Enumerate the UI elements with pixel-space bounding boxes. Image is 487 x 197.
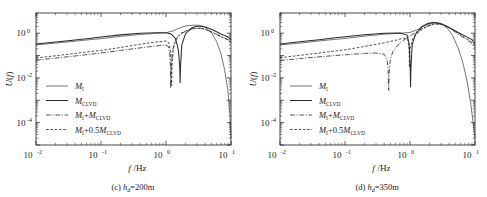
legend-label-sub: I bbox=[82, 86, 84, 92]
curve-m-clvd bbox=[280, 23, 475, 88]
y-tick-labels: 10010-210-4 bbox=[261, 28, 277, 128]
x-tick-labels: 10-210-1100101 bbox=[268, 149, 480, 160]
panel-caption: (d) hd=350m bbox=[356, 182, 400, 193]
y-axis-title-paren-close: ) bbox=[248, 71, 258, 74]
x-tick-exponent: -1 bbox=[102, 149, 107, 155]
x-tick-labels: 10-210-1100101 bbox=[24, 149, 236, 160]
curve-m-i-0-5m-clvd bbox=[280, 24, 475, 67]
plot-frame bbox=[36, 13, 231, 145]
y-axis-title-text: U(f) bbox=[4, 71, 14, 86]
y-tick-label: 10 bbox=[261, 73, 271, 83]
legend-label-1: MCLVD bbox=[318, 96, 341, 107]
x-tick-label: 10 bbox=[268, 150, 278, 160]
y-tick-labels: 10010-210-4 bbox=[17, 28, 33, 128]
curves bbox=[36, 25, 231, 138]
y-axis-title: U(f) bbox=[4, 71, 14, 86]
y-tick-exponent: -2 bbox=[271, 72, 276, 78]
curve-m-i bbox=[36, 25, 231, 138]
x-tick-label: 10 bbox=[24, 150, 34, 160]
chart-panel-c: 10-210-110010110010-210-4f/HzU(f)MIMCLVD… bbox=[0, 0, 243, 197]
y-tick-exponent: 0 bbox=[27, 28, 30, 34]
legend-label-sub2: CLVD bbox=[106, 130, 120, 136]
plot-area-d: 10-210-110010110010-210-4f/HzU(f)MIMCLVD… bbox=[248, 13, 479, 193]
chart-svg-c: 10-210-110010110010-210-4f/HzU(f)MIMCLVD… bbox=[0, 0, 243, 197]
y-axis-title: U(f) bbox=[248, 71, 258, 86]
figure-root: 10-210-110010110010-210-4f/HzU(f)MIMCLVD… bbox=[0, 0, 487, 197]
caption-value: =350m bbox=[375, 182, 400, 192]
curves bbox=[280, 23, 475, 139]
y-tick-label: 10 bbox=[261, 118, 271, 128]
x-tick-exponent: -1 bbox=[346, 149, 351, 155]
legend-label-0: MI bbox=[74, 81, 84, 92]
legend-label-3: MI+0.5MCLVD bbox=[318, 125, 365, 136]
legend-label-0: MI bbox=[318, 81, 328, 92]
panel-caption-text: (c) hd=200m bbox=[112, 182, 155, 193]
panel-caption: (c) hd=200m bbox=[112, 182, 155, 193]
legend-label-2: MI+MCLVD bbox=[318, 110, 354, 121]
caption-prefix: (d) bbox=[356, 182, 368, 192]
x-tick-label: 10 bbox=[154, 150, 164, 160]
x-tick-label: 10 bbox=[333, 150, 343, 160]
y-tick-exponent: -4 bbox=[271, 117, 276, 123]
plot-area-c: 10-210-110010110010-210-4f/HzU(f)MIMCLVD… bbox=[4, 13, 235, 193]
y-tick-label: 10 bbox=[17, 118, 27, 128]
chart-svg-d: 10-210-110010110010-210-4f/HzU(f)MIMCLVD… bbox=[244, 0, 487, 197]
y-tick-exponent: -4 bbox=[27, 117, 32, 123]
x-tick-exponent: -2 bbox=[281, 149, 286, 155]
legend-label-sub2: CLVD bbox=[96, 115, 110, 121]
x-axis-title-symbol: f bbox=[372, 163, 376, 173]
curve-m-i-m-clvd bbox=[36, 28, 231, 88]
curve-m-clvd bbox=[36, 26, 231, 83]
y-axis-title-paren-close: ) bbox=[4, 71, 14, 74]
legend-label-mid: +0.5 bbox=[328, 125, 343, 135]
x-axis-title: f/Hz bbox=[128, 163, 146, 173]
x-axis-title-unit: /Hz bbox=[378, 163, 391, 173]
x-tick-exponent: 1 bbox=[476, 149, 479, 155]
y-axis-ticks bbox=[280, 13, 475, 145]
y-tick-label: 10 bbox=[17, 28, 27, 38]
legend-label-2: MI+MCLVD bbox=[74, 110, 110, 121]
legend-label-3: MI+0.5MCLVD bbox=[74, 125, 121, 136]
y-tick-exponent: -2 bbox=[27, 72, 32, 78]
legend-label-1: MCLVD bbox=[74, 96, 97, 107]
legend-label-sub: CLVD bbox=[326, 101, 340, 107]
plot-frame bbox=[280, 13, 475, 145]
y-tick-exponent: 0 bbox=[271, 28, 274, 34]
x-axis-title-unit: /Hz bbox=[134, 163, 147, 173]
y-axis-ticks bbox=[36, 13, 231, 145]
y-axis-title-text: U(f) bbox=[248, 71, 258, 86]
y-tick-label: 10 bbox=[261, 28, 271, 38]
x-tick-label: 10 bbox=[89, 150, 99, 160]
legend-label-sub: I bbox=[326, 86, 328, 92]
y-tick-label: 10 bbox=[17, 73, 27, 83]
x-axis-title: f/Hz bbox=[372, 163, 390, 173]
caption-prefix: (c) bbox=[112, 182, 124, 192]
chart-panel-d: 10-210-110010110010-210-4f/HzU(f)MIMCLVD… bbox=[244, 0, 487, 197]
legend-label-sub: CLVD bbox=[82, 101, 96, 107]
x-tick-label: 10 bbox=[219, 150, 229, 160]
curve-m-i bbox=[280, 23, 475, 138]
caption-value: =200m bbox=[130, 182, 155, 192]
x-tick-exponent: -2 bbox=[37, 149, 42, 155]
x-tick-exponent: 1 bbox=[232, 149, 235, 155]
legend-label-sub2: CLVD bbox=[350, 130, 364, 136]
panel-caption-text: (d) hd=350m bbox=[356, 182, 400, 193]
x-axis-ticks bbox=[280, 13, 475, 145]
legend: MIMCLVDMI+MCLVDMI+0.5MCLVD bbox=[46, 81, 121, 136]
legend-label-mid: +0.5 bbox=[84, 125, 99, 135]
x-tick-label: 10 bbox=[398, 150, 408, 160]
x-tick-exponent: 0 bbox=[411, 149, 414, 155]
x-tick-label: 10 bbox=[463, 150, 473, 160]
x-axis-ticks bbox=[36, 13, 231, 145]
x-tick-exponent: 0 bbox=[167, 149, 170, 155]
x-axis-title-symbol: f bbox=[128, 163, 132, 173]
legend-label-sub2: CLVD bbox=[340, 115, 354, 121]
legend: MIMCLVDMI+MCLVDMI+0.5MCLVD bbox=[290, 81, 365, 136]
